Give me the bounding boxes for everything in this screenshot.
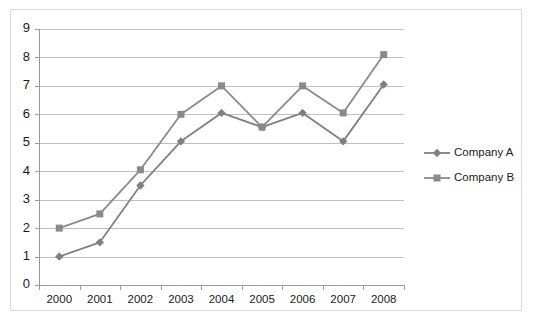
legend-label: Company B xyxy=(454,171,514,183)
data-point-marker xyxy=(96,210,103,217)
data-point-marker xyxy=(55,252,63,260)
data-point-marker xyxy=(299,82,306,89)
y-tick-label: 7 xyxy=(23,77,30,92)
legend-swatch-marker xyxy=(433,149,441,157)
chart-legend: Company ACompany B xyxy=(424,146,514,183)
x-axis-tick-labels: 200020012002200320042005200620072008 xyxy=(46,293,396,305)
x-tick-label: 2005 xyxy=(249,293,275,305)
x-tick-label: 2008 xyxy=(371,293,397,305)
y-tick-label: 3 xyxy=(23,191,30,206)
series-line xyxy=(59,55,383,229)
gridlines xyxy=(39,30,404,286)
series-company-b xyxy=(56,51,387,232)
data-point-marker xyxy=(137,166,144,173)
line-chart: 0123456789 20002001200220032004200520062… xyxy=(0,0,534,325)
x-tick-label: 2007 xyxy=(330,293,356,305)
y-tick-label: 1 xyxy=(23,248,30,263)
y-tick-label: 9 xyxy=(23,20,30,35)
data-point-marker xyxy=(218,82,225,89)
legend-swatch-marker xyxy=(434,175,441,182)
x-tick-label: 2006 xyxy=(290,293,316,305)
data-point-marker xyxy=(380,51,387,58)
x-tick-label: 2001 xyxy=(87,293,113,305)
axes xyxy=(35,29,405,290)
y-tick-label: 2 xyxy=(23,220,30,235)
x-tick-label: 2004 xyxy=(209,293,235,305)
data-point-marker xyxy=(259,124,266,131)
data-series xyxy=(55,51,388,261)
x-tick-label: 2003 xyxy=(168,293,194,305)
y-tick-label: 5 xyxy=(23,134,30,149)
y-tick-label: 8 xyxy=(23,49,30,64)
legend-item-company-b[interactable]: Company B xyxy=(424,171,514,183)
x-tick-label: 2002 xyxy=(128,293,154,305)
y-tick-label: 6 xyxy=(23,106,30,121)
y-tick-label: 4 xyxy=(23,163,30,178)
y-tick-label: 0 xyxy=(23,276,30,291)
legend-label: Company A xyxy=(454,146,514,158)
legend-item-company-a[interactable]: Company A xyxy=(424,146,514,158)
data-point-marker xyxy=(340,109,347,116)
data-point-marker xyxy=(177,111,184,118)
y-axis-tick-labels: 0123456789 xyxy=(23,20,30,291)
x-tick-label: 2000 xyxy=(46,293,72,305)
series-company-a xyxy=(55,80,388,260)
data-point-marker xyxy=(56,225,63,232)
